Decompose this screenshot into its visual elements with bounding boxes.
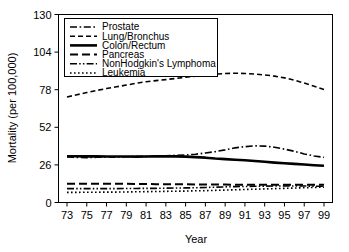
x-tick-label: 85 (179, 209, 191, 221)
y-tick-label: 0 (45, 197, 51, 209)
x-tick-label: 91 (239, 209, 251, 221)
x-tick-label: 81 (140, 209, 152, 221)
x-tick-label: 97 (298, 209, 310, 221)
x-tick-label: 93 (259, 209, 271, 221)
x-tick-label: 75 (81, 209, 93, 221)
x-tick-label: 83 (160, 209, 172, 221)
x-tick-label: 99 (318, 209, 330, 221)
y-tick-label: 130 (33, 9, 51, 21)
chart-figure: Mortality (per 100,000) 0265278104130 Ye… (0, 0, 349, 252)
legend-label-leukemia: Leukemia (102, 67, 146, 78)
y-axis-title: Mortality (per 100,000) (6, 53, 18, 164)
x-tick-label: 87 (199, 209, 211, 221)
legend: ProstateLung/BronchusColon/RectumPancrea… (65, 19, 218, 79)
x-tick-label: 73 (61, 209, 73, 221)
x-tick-label: 77 (100, 209, 112, 221)
y-tick-label: 78 (39, 84, 51, 96)
x-axis-title: Year (185, 233, 208, 245)
y-tick-label: 26 (39, 159, 51, 171)
mortality-line-chart: Mortality (per 100,000) 0265278104130 Ye… (0, 0, 349, 252)
x-tick-label: 79 (120, 209, 132, 221)
x-tick-label: 95 (278, 209, 290, 221)
y-tick-label: 104 (33, 46, 51, 58)
y-tick-label: 52 (39, 121, 51, 133)
x-tick-label: 89 (219, 209, 231, 221)
